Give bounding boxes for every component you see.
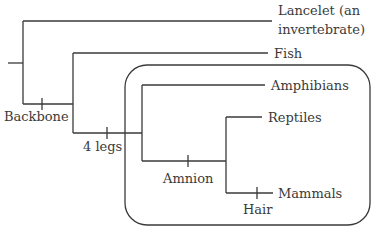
label-fish: Fish xyxy=(274,46,303,61)
trait-four-legs: 4 legs xyxy=(83,139,122,154)
label-lancelet-2: invertebrate) xyxy=(278,22,365,37)
cladogram: Lancelet (an invertebrate) Backbone Fish… xyxy=(0,0,374,234)
label-amphibians: Amphibians xyxy=(270,78,349,93)
trait-amnion: Amnion xyxy=(162,171,214,186)
label-lancelet-1: Lancelet (an xyxy=(278,3,361,18)
trait-backbone: Backbone xyxy=(4,109,69,124)
label-mammals: Mammals xyxy=(278,186,342,201)
trait-hair: Hair xyxy=(243,202,273,217)
label-reptiles: Reptiles xyxy=(268,110,322,125)
